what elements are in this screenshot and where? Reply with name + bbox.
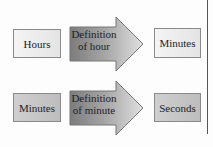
target-unit-label: Seconds	[159, 102, 196, 114]
source-unit-label: Minutes	[19, 102, 55, 114]
conversion-line-1: Definition	[70, 28, 118, 40]
source-unit-box: Hours	[13, 29, 61, 58]
source-unit-label: Hours	[24, 38, 51, 50]
target-unit-label: Minutes	[159, 37, 195, 49]
source-unit-box: Minutes	[13, 93, 61, 122]
target-unit-box: Seconds	[154, 93, 201, 122]
conversion-line-2: of minute	[70, 104, 118, 116]
conversion-factor-label: Definition of hour	[70, 28, 118, 52]
conversion-line-2: of hour	[70, 40, 118, 52]
conversion-factor-label: Definition of minute	[70, 92, 118, 116]
conversion-line-1: Definition	[70, 92, 118, 104]
page-divider	[207, 0, 208, 134]
target-unit-box: Minutes	[154, 28, 201, 58]
